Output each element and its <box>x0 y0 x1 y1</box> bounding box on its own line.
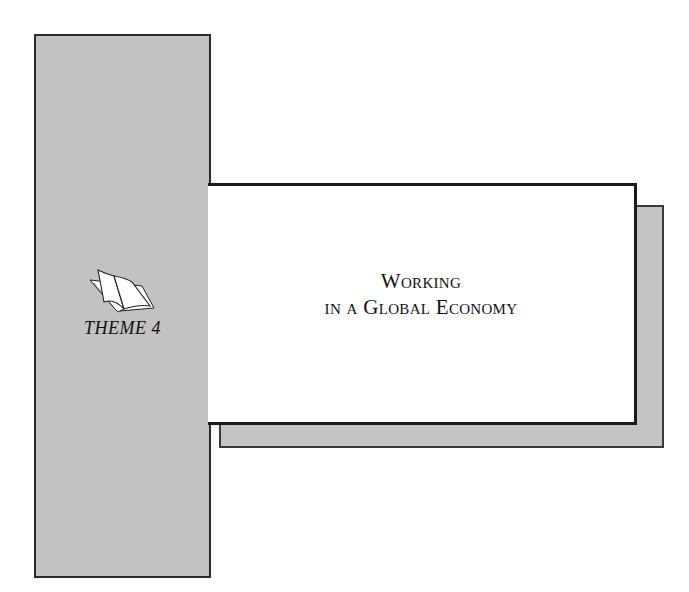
theme-label: THEME 4 <box>34 318 211 339</box>
chapter-title-line-1: Working <box>208 268 634 294</box>
title-card: Working in a Global Economy <box>208 183 637 425</box>
open-book-icon <box>84 268 160 314</box>
chapter-title-line-2: in a Global Economy <box>208 294 634 320</box>
chapter-title: Working in a Global Economy <box>208 268 634 320</box>
